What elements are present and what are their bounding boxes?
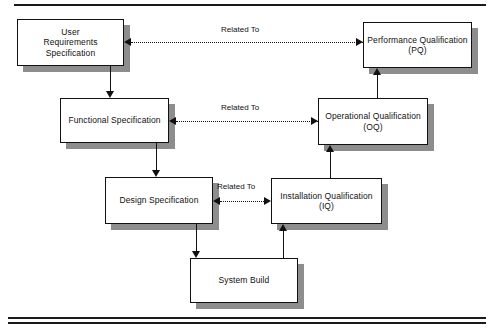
arrowhead-iq-to-oq bbox=[326, 145, 334, 152]
node-operational-qualification[interactable]: Operational Qualification (OQ) bbox=[318, 98, 428, 145]
arrowhead-related-fs bbox=[169, 117, 176, 125]
page-rule-top bbox=[14, 4, 486, 6]
edge-label-related-oq: Related To bbox=[221, 103, 259, 112]
arrowhead-fs-to-ds bbox=[152, 170, 160, 177]
node-design-specification[interactable]: Design Specification bbox=[105, 177, 213, 224]
connector-iq-to-oq bbox=[330, 152, 331, 178]
arrowhead-oq-to-pq bbox=[373, 68, 381, 75]
node-system-build[interactable]: System Build bbox=[190, 258, 298, 303]
node-label-ds: Design Specification bbox=[117, 195, 200, 206]
node-label-oq: Operational Qualification (OQ) bbox=[323, 111, 423, 132]
arrowhead-sb-to-iq bbox=[279, 224, 287, 231]
connector-ds-to-sb bbox=[196, 224, 197, 251]
arrowhead-related-oq bbox=[311, 117, 318, 125]
connector-oq-to-pq bbox=[377, 75, 378, 99]
page-rule-bottom-1 bbox=[8, 317, 486, 319]
related-line-ds-iq bbox=[220, 201, 264, 202]
connector-sb-to-iq bbox=[283, 231, 284, 258]
arrowhead-related-iq bbox=[264, 197, 271, 205]
node-user-requirements-specification[interactable]: User Requirements Specification bbox=[17, 19, 124, 66]
arrowhead-related-urs bbox=[124, 38, 131, 46]
arrowhead-related-ds bbox=[213, 197, 220, 205]
connector-fs-to-ds bbox=[156, 143, 157, 170]
diagram-canvas: Related To Related To Related To User Re… bbox=[0, 0, 491, 334]
related-line-urs-pq bbox=[131, 42, 363, 43]
node-label-iq: Installation Qualification (IQ) bbox=[278, 191, 374, 212]
node-functional-specification[interactable]: Functional Specification bbox=[60, 98, 169, 143]
node-installation-qualification[interactable]: Installation Qualification (IQ) bbox=[271, 178, 382, 224]
related-line-fs-oq bbox=[176, 121, 318, 122]
arrowhead-ds-to-sb bbox=[192, 251, 200, 258]
arrowhead-urs-to-fs bbox=[106, 91, 114, 98]
page-rule-bottom-2 bbox=[8, 322, 486, 324]
node-label-fs: Functional Specification bbox=[66, 115, 162, 126]
node-label-sb: System Build bbox=[217, 275, 272, 286]
arrowhead-related-pq bbox=[356, 38, 363, 46]
node-performance-qualification[interactable]: Performance Qualification (PQ) bbox=[363, 22, 472, 68]
node-label-pq: Performance Qualification (PQ) bbox=[365, 35, 469, 56]
edge-label-related-iq: Related To bbox=[217, 182, 255, 191]
node-label-urs: User Requirements Specification bbox=[41, 27, 99, 59]
connector-urs-to-fs bbox=[110, 66, 111, 92]
edge-label-related-pq: Related To bbox=[221, 25, 259, 34]
